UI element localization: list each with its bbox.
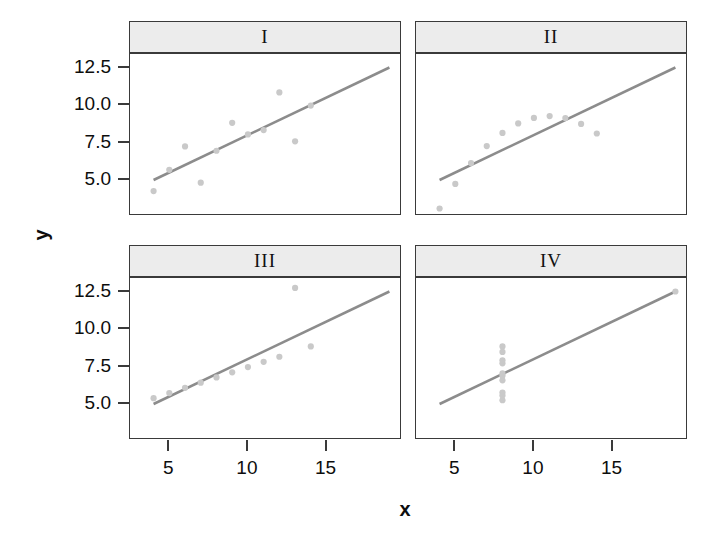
panel-strip-header: I [129,21,401,53]
y-tick-label: 10.0 [49,93,111,115]
regression-line [440,68,676,181]
y-tick-mark [118,141,129,143]
x-tick-mark [325,440,327,451]
data-point [150,395,156,401]
data-point [499,130,505,136]
y-tick-label: 7.5 [49,131,111,153]
panel-plot-area [129,53,401,215]
data-point [499,349,505,355]
data-point [672,288,678,294]
data-point [245,131,251,137]
data-point [166,167,172,173]
y-tick-mark [118,66,129,68]
y-tick-label: 10.0 [49,317,111,339]
data-point [468,160,474,166]
y-tick-label: 5.0 [49,168,111,190]
data-point [229,369,235,375]
data-point [213,148,219,154]
panel-plot-area [129,277,401,439]
data-point [229,120,235,126]
data-point [182,143,188,149]
data-point [594,130,600,136]
data-point [531,115,537,121]
data-point [499,343,505,349]
x-tick-label: 15 [592,457,632,479]
panel-plot-area [415,277,687,439]
panel-data-layer [416,278,685,437]
x-tick-mark [453,440,455,451]
data-point [198,380,204,386]
regression-line [154,68,390,181]
x-tick-mark [532,440,534,451]
data-point [292,138,298,144]
regression-line [440,292,676,405]
x-tick-label: 5 [148,457,188,479]
panel-i: I [129,21,401,215]
panel-ii: II [415,21,687,215]
y-tick-mark [118,103,129,105]
panel-data-layer [130,54,399,213]
data-point [150,188,156,194]
panel-data-layer [416,54,685,213]
panel-iii: III [129,245,401,439]
y-tick-label: 12.5 [49,280,111,302]
y-tick-label: 12.5 [49,56,111,78]
data-point [547,113,553,119]
data-point [276,89,282,95]
y-tick-mark [118,365,129,367]
y-tick-label: 5.0 [49,392,111,414]
data-point [261,359,267,365]
panel-strip-header: IV [415,245,687,277]
data-point [198,180,204,186]
data-point [578,121,584,127]
panel-data-layer [130,278,399,437]
data-point [562,115,568,121]
y-tick-mark [118,290,129,292]
data-point [515,120,521,126]
data-point [166,390,172,396]
y-tick-mark [118,178,129,180]
data-point [308,103,314,109]
x-tick-label: 5 [434,457,474,479]
data-point [452,181,458,187]
y-axis-title: y [28,222,54,248]
data-point [276,354,282,360]
y-tick-mark [118,327,129,329]
data-point [308,343,314,349]
x-tick-mark [611,440,613,451]
y-tick-label: 7.5 [49,355,111,377]
x-tick-label: 10 [227,457,267,479]
x-axis-title: x [392,496,418,522]
panel-label: IV [540,250,562,272]
data-point [499,357,505,363]
panel-label: I [261,26,268,48]
data-point [213,374,219,380]
data-point [499,373,505,379]
data-point [436,205,442,211]
data-point [292,285,298,291]
x-tick-label: 10 [513,457,553,479]
data-point [484,143,490,149]
panel-label: II [544,26,559,48]
panel-label: III [254,250,276,272]
panel-strip-header: II [415,21,687,53]
regression-line [154,292,390,405]
panel-plot-area [415,53,687,215]
y-tick-mark [118,402,129,404]
panel-iv: IV [415,245,687,439]
data-point [499,393,505,399]
data-point [261,127,267,133]
anscombe-quartet-figure: y x 5.05.07.57.510.010.012.512.5 5101551… [0,0,720,550]
x-tick-label: 15 [306,457,346,479]
data-point [245,364,251,370]
data-point [182,385,188,391]
x-tick-mark [167,440,169,451]
panel-strip-header: III [129,245,401,277]
x-tick-mark [246,440,248,451]
